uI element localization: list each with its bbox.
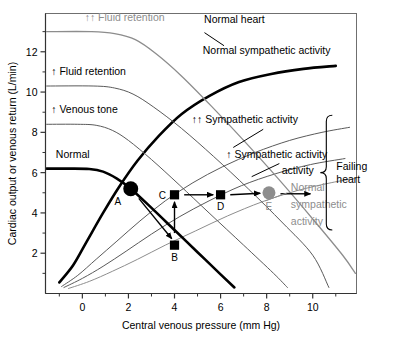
curve-annotation: Normal sympathetic activity <box>203 44 332 56</box>
curve-annotation: activity <box>282 164 315 176</box>
curve-annotation: activity <box>291 215 324 227</box>
curve-annotation: sympathetic <box>291 198 347 210</box>
chart-canvas: ABCDE ↑↑ Fluid retention↑ Fluid retentio… <box>0 0 393 341</box>
curve-annotation: Normal <box>291 181 325 193</box>
curve-annotation: ↑ Fluid retention <box>51 65 126 77</box>
operating-point-c <box>170 190 179 199</box>
figure-background <box>0 0 393 341</box>
x-tick-label: 2 <box>126 301 132 313</box>
curve-annotation: Normal heart <box>204 13 265 25</box>
x-tick-label: 0 <box>79 301 85 313</box>
curve-annotation: ↑↑ Fluid retention <box>85 11 165 23</box>
operating-point-d <box>216 190 225 199</box>
curve-annotation: ↑ Venous tone <box>51 103 118 115</box>
x-axis-title: Central venous pressure (mm Hg) <box>122 319 280 331</box>
curve-annotation: ↑ Sympathetic activity <box>226 148 328 160</box>
y-axis-title: Cardiac output or venous return (L/min) <box>6 62 18 245</box>
cardiac-output-venous-return-figure: ABCDE ↑↑ Fluid retention↑ Fluid retentio… <box>0 0 393 341</box>
y-tick-label: 12 <box>26 46 38 58</box>
curve-annotation: ↑↑ Sympathetic activity <box>192 113 299 125</box>
point-label-e: E <box>266 201 273 212</box>
y-tick-label: 6 <box>32 167 38 179</box>
bracket-label-line2: heart <box>336 173 360 185</box>
y-tick-label: 8 <box>32 126 38 138</box>
operating-point-b <box>170 241 179 250</box>
operating-point-a <box>123 181 138 196</box>
x-tick-label: 4 <box>172 301 178 313</box>
x-tick-label: 10 <box>307 301 319 313</box>
point-label-a: A <box>115 196 122 207</box>
point-label-c: C <box>159 190 166 201</box>
x-tick-label: 8 <box>264 301 270 313</box>
operating-point-e <box>262 186 275 199</box>
curve-annotation: Normal <box>56 148 90 160</box>
point-label-b: B <box>171 252 178 263</box>
x-tick-label: 6 <box>218 301 224 313</box>
y-tick-label: 2 <box>32 247 38 259</box>
point-label-d: D <box>217 201 224 212</box>
y-tick-label: 10 <box>26 86 38 98</box>
bracket-label-line1: Failing <box>336 160 367 172</box>
y-tick-label: 4 <box>32 207 38 219</box>
